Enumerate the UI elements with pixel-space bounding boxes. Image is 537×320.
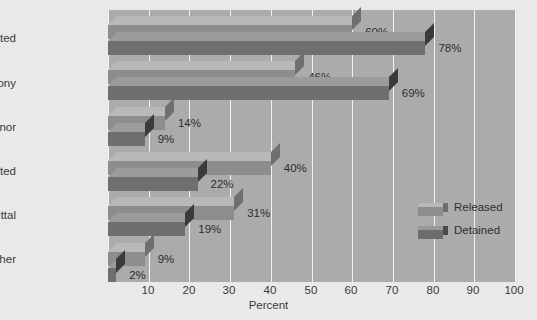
x-tick-60: 60	[331, 284, 371, 296]
value-label-misdemeanor-released: 14%	[178, 117, 201, 129]
value-label-not-convicted-detained: 22%	[211, 178, 234, 190]
bar-top-face	[108, 168, 207, 177]
gridline-80	[434, 10, 435, 282]
category-label-misdemeanor: Misdemeanor	[0, 121, 16, 133]
bar-not-convicted-detained[interactable]	[108, 177, 198, 191]
x-axis-title: Percent	[0, 299, 537, 311]
detained-swatch-icon	[418, 226, 443, 237]
value-label-misdemeanor-detained: 9%	[158, 133, 175, 145]
bar-chart: Convicted Felony Misdemeanor Not convict…	[0, 0, 537, 320]
bar-top-face	[108, 61, 304, 70]
bar-top-face	[108, 16, 361, 25]
gridline-100	[515, 10, 516, 282]
bar-other-detained[interactable]	[108, 268, 116, 282]
bar-top-face	[108, 32, 434, 41]
value-label-dismissal-acquittal-detained: 19%	[198, 223, 221, 235]
value-label-other-released: 9%	[158, 253, 175, 265]
released-swatch-icon	[418, 203, 443, 214]
x-tick-70: 70	[372, 284, 412, 296]
bar-top-face	[108, 197, 243, 206]
x-tick-100: 100	[494, 284, 534, 296]
value-label-other-detained: 2%	[129, 269, 146, 281]
bar-top-face	[108, 213, 194, 222]
category-label-felony: Felony	[0, 77, 16, 89]
x-tick-10: 10	[128, 284, 168, 296]
bar-misdemeanor-detained[interactable]	[108, 132, 145, 146]
value-label-not-convicted-released: 40%	[284, 162, 307, 174]
bar-felony-detained[interactable]	[108, 86, 389, 100]
value-label-felony-detained: 69%	[402, 87, 425, 99]
bar-convicted-detained[interactable]	[108, 41, 425, 55]
gridline-90	[474, 10, 475, 282]
x-tick-30: 30	[209, 284, 249, 296]
category-label-convicted: Convicted	[0, 32, 16, 44]
category-label-other: Other	[0, 253, 16, 265]
x-tick-50: 50	[291, 284, 331, 296]
x-tick-40: 40	[250, 284, 290, 296]
bar-dismissal-acquittal-detained[interactable]	[108, 222, 185, 236]
category-label-dismissal-acquittal: Dismissal/acquittal	[0, 209, 16, 221]
value-label-dismissal-acquittal-released: 31%	[247, 207, 270, 219]
category-label-not-convicted: Not convicted	[0, 165, 16, 177]
legend-label-released: Released	[454, 201, 503, 213]
x-tick-90: 90	[453, 284, 493, 296]
value-label-convicted-detained: 78%	[438, 42, 461, 54]
legend-label-detained: Detained	[454, 224, 500, 236]
bar-top-face	[108, 77, 398, 86]
x-tick-20: 20	[169, 284, 209, 296]
x-tick-80: 80	[413, 284, 453, 296]
bar-top-face	[108, 152, 280, 161]
